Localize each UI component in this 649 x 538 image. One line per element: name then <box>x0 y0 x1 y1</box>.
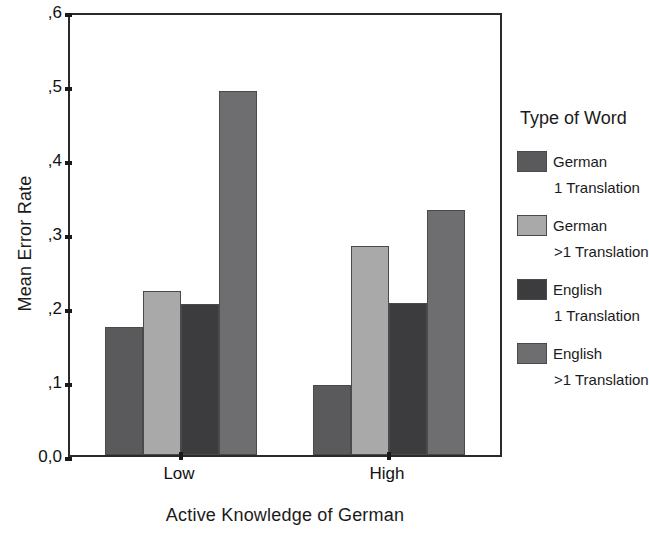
y-axis-tick-label: ,1 <box>20 374 62 391</box>
legend-row: English <box>517 279 649 300</box>
legend-entry: English1 Translation <box>517 279 649 324</box>
legend-label: German <box>553 217 607 234</box>
legend-sublabel: 1 Translation <box>554 307 649 324</box>
legend-entry: German>1 Translation <box>517 215 649 260</box>
y-axis-tick-label: ,4 <box>20 152 62 169</box>
x-axis-title: Active Knowledge of German <box>68 505 502 526</box>
y-axis-tick-mark <box>65 383 72 387</box>
bar <box>219 91 257 455</box>
legend-swatch-icon <box>517 215 547 236</box>
legend-title: Type of Word <box>520 108 649 129</box>
bar <box>181 304 219 455</box>
legend-entry: English>1 Translation <box>517 343 649 388</box>
y-axis-tick-mark <box>65 161 72 165</box>
y-axis-tick-label: ,2 <box>20 300 62 317</box>
legend-label: German <box>553 153 607 170</box>
legend-row: German <box>517 151 649 172</box>
bars-layer <box>70 15 500 455</box>
bar <box>427 210 465 455</box>
legend-sublabel: >1 Translation <box>554 371 649 388</box>
y-axis-tick-mark <box>65 309 72 313</box>
y-axis-tick-label: 0,0 <box>20 448 62 465</box>
legend: Type of Word German1 TranslationGerman>1… <box>517 108 649 407</box>
legend-sublabel: 1 Translation <box>554 179 649 196</box>
y-axis-tick-label: ,3 <box>20 226 62 243</box>
legend-swatch-icon <box>517 343 547 364</box>
plot-area <box>68 13 502 457</box>
y-axis-tick-label: ,6 <box>20 4 62 21</box>
bar <box>351 246 389 455</box>
bar <box>143 291 181 455</box>
x-axis-tick-label: High <box>342 464 432 484</box>
legend-entries: German1 TranslationGerman>1 TranslationE… <box>517 151 649 388</box>
bar <box>389 303 427 455</box>
y-axis-tick-mark <box>65 13 72 17</box>
y-axis-tick-labels: 0,0,1,2,3,4,5,6 <box>14 0 62 470</box>
legend-row: German <box>517 215 649 236</box>
bar <box>105 327 143 455</box>
legend-entry: German1 Translation <box>517 151 649 196</box>
bar <box>313 385 351 455</box>
y-axis-tick-mark <box>65 457 72 461</box>
y-axis-tick-mark <box>65 87 72 91</box>
legend-swatch-icon <box>517 279 547 300</box>
x-axis-tick-mark <box>179 452 183 460</box>
legend-label: English <box>553 345 602 362</box>
y-axis-tick-label: ,5 <box>20 78 62 95</box>
chart-figure: Mean Error Rate 0,0,1,2,3,4,5,6 Active K… <box>0 0 649 538</box>
legend-label: English <box>553 281 602 298</box>
legend-sublabel: >1 Translation <box>554 243 649 260</box>
legend-swatch-icon <box>517 151 547 172</box>
x-axis-tick-mark <box>387 452 391 460</box>
legend-row: English <box>517 343 649 364</box>
x-axis-tick-label: Low <box>134 464 224 484</box>
y-axis-tick-mark <box>65 235 72 239</box>
